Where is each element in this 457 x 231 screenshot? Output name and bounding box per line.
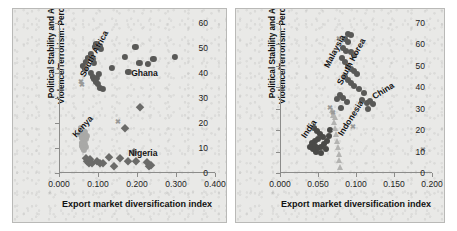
x-tick-mark	[432, 173, 433, 177]
data-point-diamond	[116, 154, 124, 162]
x-tick-mark	[394, 173, 395, 177]
data-point-cross: ✖	[115, 118, 120, 123]
y-tick-mark	[276, 66, 280, 67]
y-tick-label: 20	[199, 118, 208, 128]
data-point-circle	[100, 86, 106, 92]
data-point-diamond	[136, 103, 144, 111]
data-point-circle	[172, 54, 178, 60]
data-point-diamond	[121, 124, 129, 132]
y-tick-mark	[55, 48, 59, 49]
data-point-triangle	[336, 157, 342, 163]
x-axis-title-left: Export market diversification index	[62, 199, 212, 209]
plot-area-right: ✖✖✖✖✖ MalaysiaSouth KoreaChinaIndiaIndon…	[280, 23, 432, 173]
data-point-diamond	[105, 153, 113, 161]
series-label-china: China	[371, 80, 397, 101]
y-tick-label: 60	[199, 18, 208, 28]
y-tick-mark	[55, 98, 59, 99]
x-tick-label: 0.400	[204, 179, 225, 189]
series-label-nigeria: Nigeria	[128, 148, 157, 158]
data-point-cross: ✖	[331, 109, 336, 114]
x-tick-label: 0.200	[421, 179, 442, 189]
x-tick-label: 0.000	[48, 179, 69, 189]
y-axis-line-right	[280, 23, 281, 173]
data-point-circle	[81, 147, 87, 153]
data-point-circle	[361, 90, 367, 96]
x-tick-label: 0.150	[383, 179, 404, 189]
y-tick-label: 60	[416, 39, 425, 49]
data-point-circle	[354, 71, 360, 77]
x-tick-mark	[356, 173, 357, 177]
x-tick-label: 0.050	[307, 179, 328, 189]
y-tick-label: 40	[416, 82, 425, 92]
x-tick-mark	[280, 173, 281, 177]
data-point-circle	[338, 105, 344, 111]
data-point-circle	[145, 61, 151, 67]
data-point-circle	[324, 138, 330, 144]
data-point-circle	[132, 44, 138, 50]
y-tick-mark	[276, 44, 280, 45]
x-tick-label: 0.000	[269, 179, 290, 189]
figure-root: Political Stability and Absence of Viole…	[0, 0, 457, 231]
y-tick-mark	[55, 123, 59, 124]
series-label-ghana: Ghana	[131, 68, 158, 78]
data-point-circle	[307, 144, 313, 150]
chart-panel-left: Political Stability and Absence of Viole…	[12, 8, 227, 223]
x-tick-label: 0.300	[165, 179, 186, 189]
y-tick-label: 50	[199, 43, 208, 53]
x-axis-title-right: Export market diversification index	[281, 199, 431, 209]
x-tick-mark	[59, 173, 60, 177]
y-tick-mark	[55, 73, 59, 74]
plot-area-left: ✖✖✖ South AfricaGhanaKenyaNigeria 010203…	[59, 23, 215, 173]
y-tick-mark	[276, 87, 280, 88]
data-point-circle	[365, 106, 371, 112]
y-tick-mark	[276, 109, 280, 110]
y-tick-mark	[55, 148, 59, 149]
series-label-south-africa: South Africa	[78, 28, 111, 78]
data-point-circle	[109, 65, 115, 71]
y-tick-label: 10	[416, 147, 425, 157]
y-tick-label: 10	[199, 143, 208, 153]
y-tick-label: 50	[416, 61, 425, 71]
data-point-diamond	[110, 162, 118, 170]
y-tick-mark	[276, 23, 280, 24]
y-tick-label: 70	[416, 18, 425, 28]
x-tick-mark	[137, 173, 138, 177]
data-point-cross: ✖	[80, 81, 85, 86]
y-tick-label: 0	[420, 168, 425, 178]
y-tick-label: 40	[199, 68, 208, 78]
data-point-triangle	[337, 164, 343, 170]
data-point-circle	[150, 56, 156, 62]
y-tick-mark	[55, 23, 59, 24]
data-point-circle	[345, 39, 351, 45]
chart-panel-right: Political Stability and Absence of Viole…	[235, 8, 445, 223]
data-point-circle	[84, 132, 90, 138]
x-tick-mark	[215, 173, 216, 177]
data-point-circle	[326, 133, 332, 139]
y-tick-label: 30	[416, 104, 425, 114]
y-tick-label: 30	[199, 93, 208, 103]
data-point-circle	[136, 60, 142, 66]
data-point-circle	[96, 71, 102, 77]
data-point-triangle	[334, 138, 340, 144]
data-point-triangle	[336, 151, 342, 157]
data-point-circle	[334, 96, 340, 102]
y-tick-label: 20	[416, 125, 425, 135]
x-tick-label: 0.100	[87, 179, 108, 189]
x-tick-mark	[176, 173, 177, 177]
x-tick-mark	[318, 173, 319, 177]
y-tick-mark	[276, 152, 280, 153]
data-point-circle	[344, 99, 350, 105]
y-tick-mark	[276, 130, 280, 131]
data-point-triangle	[335, 144, 341, 150]
x-tick-label: 0.200	[126, 179, 147, 189]
x-tick-mark	[98, 173, 99, 177]
data-point-circle	[348, 32, 354, 38]
y-tick-label: 0	[203, 168, 208, 178]
x-tick-label: 0.100	[345, 179, 366, 189]
y-axis-line-left	[59, 23, 60, 173]
data-point-circle	[121, 54, 127, 60]
